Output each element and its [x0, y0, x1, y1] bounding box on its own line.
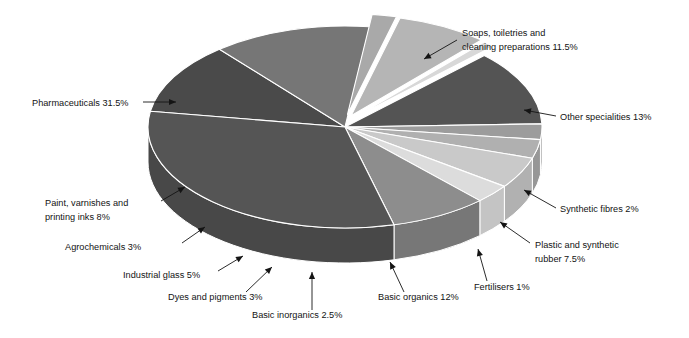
- label-paint-varnishes-line1: Paint, varnishes and: [45, 198, 128, 208]
- label-paint-varnishes: Paint, varnishes and printing inks 8%: [45, 198, 128, 222]
- label-industrial-glass: Industrial glass 5%: [123, 270, 200, 280]
- label-dyes-pigments: Dyes and pigments 3%: [168, 292, 262, 302]
- label-basic-organics: Basic organics 12%: [378, 292, 459, 302]
- label-other-specialities: Other specialities 13%: [560, 112, 651, 122]
- label-fertilisers: Fertilisers 1%: [474, 282, 530, 292]
- label-basic-organics-text: Basic organics 12%: [378, 292, 459, 302]
- arrowhead-basic-inorganics: [309, 272, 315, 279]
- pie-chart-svg: Soaps, toiletries and cleaning preparati…: [0, 0, 689, 338]
- label-dyes-pigments-text: Dyes and pigments 3%: [168, 292, 262, 302]
- label-agrochemicals-text: Agrochemicals 3%: [65, 242, 141, 252]
- label-basic-inorganics-text: Basic inorganics 2.5%: [252, 310, 342, 320]
- label-agrochemicals: Agrochemicals 3%: [65, 242, 141, 252]
- label-soaps-line1: Soaps, toiletries and: [462, 28, 545, 38]
- label-synthetic-fibres: Synthetic fibres 2%: [560, 204, 639, 214]
- label-fertilisers-text: Fertilisers 1%: [474, 282, 530, 292]
- label-other-specialities-text: Other specialities 13%: [560, 112, 651, 122]
- arrowhead-fertilisers: [477, 249, 483, 257]
- label-plastic-rubber-line1: Plastic and synthetic: [535, 240, 619, 250]
- label-plastic-rubber-line2: rubber 7.5%: [535, 254, 585, 264]
- arrowhead-industrial-glass: [235, 256, 243, 262]
- label-paint-varnishes-line2: printing inks 8%: [45, 212, 110, 222]
- label-pharmaceuticals: Pharmaceuticals 31.5%: [32, 98, 129, 108]
- label-industrial-glass-text: Industrial glass 5%: [123, 270, 200, 280]
- arrowhead-plastic-rubber: [500, 222, 508, 229]
- pie-chart-figure: Soaps, toiletries and cleaning preparati…: [0, 0, 689, 338]
- label-pharmaceuticals-text: Pharmaceuticals 31.5%: [32, 98, 129, 108]
- label-plastic-rubber: Plastic and synthetic rubber 7.5%: [535, 240, 619, 264]
- label-soaps-line2: cleaning preparations 11.5%: [462, 42, 578, 52]
- label-synthetic-fibres-text: Synthetic fibres 2%: [560, 204, 639, 214]
- label-basic-inorganics: Basic inorganics 2.5%: [252, 310, 342, 320]
